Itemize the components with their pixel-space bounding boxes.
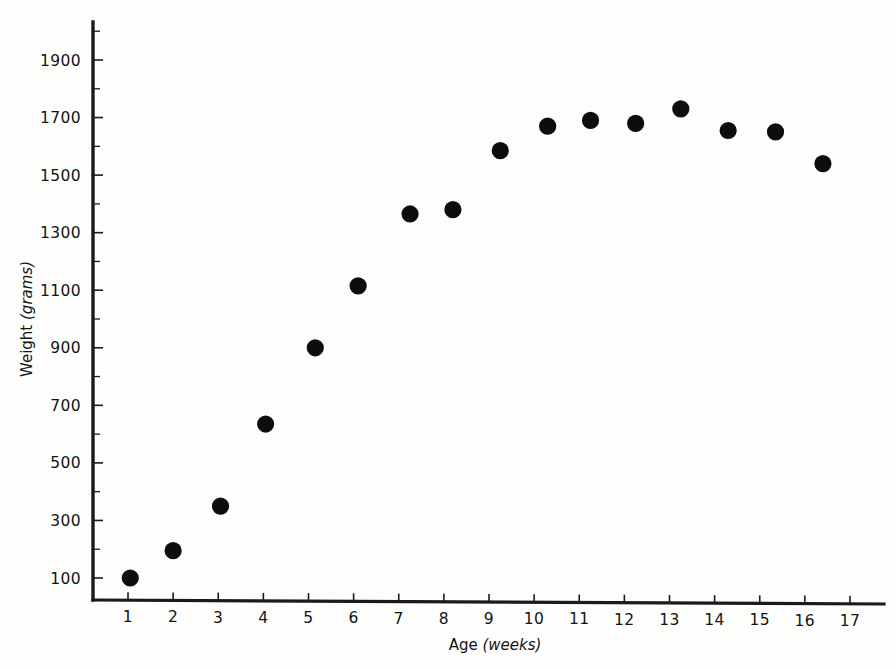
- y-tick-label: 1300: [40, 224, 81, 242]
- y-axis: 10030050070090011001300150017001900: [40, 22, 103, 600]
- x-tick-label: 3: [213, 609, 223, 627]
- data-point: [539, 118, 556, 135]
- data-point: [444, 201, 461, 218]
- data-point: [122, 569, 139, 586]
- y-tick-label: 900: [50, 339, 81, 357]
- data-point: [350, 277, 367, 294]
- data-point: [165, 542, 182, 559]
- y-tick-label: 1700: [40, 109, 81, 127]
- x-tick-label: 15: [749, 611, 770, 629]
- data-point: [492, 142, 509, 159]
- x-tick-label: 16: [795, 612, 816, 630]
- x-tick-label: 11: [569, 610, 590, 628]
- x-tick-label: 2: [168, 608, 178, 626]
- data-point: [814, 155, 831, 172]
- x-axis: 1234567891011121314151617: [93, 592, 884, 630]
- data-point: [720, 122, 737, 139]
- data-point: [257, 415, 274, 432]
- data-point: [627, 115, 644, 132]
- x-axis-title: Age (weeks): [449, 636, 542, 654]
- axis-titles: Age (weeks)Weight (grams): [18, 261, 541, 654]
- data-point: [582, 112, 599, 129]
- y-tick-label: 1900: [40, 52, 81, 70]
- x-tick-label: 12: [614, 611, 635, 629]
- y-tick-label: 500: [50, 454, 81, 472]
- y-tick-label: 700: [50, 397, 81, 415]
- x-tick-label: 5: [303, 609, 313, 627]
- x-tick-label: 4: [258, 609, 268, 627]
- x-tick-label: 7: [394, 610, 404, 628]
- data-point: [212, 497, 229, 514]
- scatter-plot-canvas: 10030050070090011001300150017001900 1234…: [0, 0, 896, 669]
- data-point: [672, 100, 689, 117]
- y-tick-label: 300: [50, 512, 81, 530]
- x-tick-label: 17: [840, 612, 861, 630]
- x-tick-label: 10: [524, 610, 545, 628]
- x-tick-label: 14: [704, 611, 725, 629]
- x-tick-label: 1: [123, 608, 133, 626]
- y-tick-label: 1100: [40, 282, 81, 300]
- growth-scatter-figure: 10030050070090011001300150017001900 1234…: [0, 0, 896, 669]
- x-tick-label: 13: [659, 611, 680, 629]
- data-point-series: [122, 100, 832, 586]
- y-tick-label: 100: [50, 570, 81, 588]
- x-tick-label: 6: [348, 609, 358, 627]
- y-axis-title: Weight (grams): [18, 261, 36, 377]
- y-tick-label: 1500: [40, 167, 81, 185]
- x-tick-label: 8: [439, 610, 449, 628]
- data-point: [401, 205, 418, 222]
- x-tick-label: 9: [484, 610, 494, 628]
- data-point: [767, 123, 784, 140]
- data-point: [307, 339, 324, 356]
